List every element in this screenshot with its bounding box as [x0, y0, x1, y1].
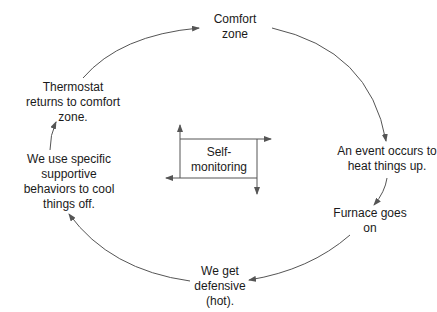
arrow-event-to-furnace	[374, 178, 387, 205]
node-self-monitoring: Self- monitoring	[184, 145, 254, 175]
node-line: returns to comfort	[18, 95, 128, 110]
arrow-comfort-to-event	[272, 28, 386, 141]
node-line: (hot).	[180, 294, 260, 309]
node-line: behaviors to cool	[14, 182, 124, 197]
node-line: Furnace goes	[320, 206, 420, 221]
node-line: supportive	[14, 167, 124, 182]
arrow-thermostat-to-comfort	[83, 28, 199, 78]
node-line: on	[320, 221, 420, 236]
node-line: things off.	[14, 197, 124, 212]
arrow-furnace-to-defensive	[249, 235, 350, 280]
node-we-get-defensive: We get defensive (hot).	[180, 264, 260, 309]
node-line: zone.	[18, 110, 128, 125]
node-line: monitoring	[184, 160, 254, 175]
node-line: zone	[190, 27, 280, 42]
node-line: heat things up.	[329, 159, 437, 174]
node-line: Self-	[184, 145, 254, 160]
node-supportive-behaviors: We use specific supportive behaviors to …	[14, 152, 124, 212]
arrow-behaviors-to-thermostat	[50, 122, 56, 150]
node-event-occurs: An event occurs to heat things up.	[329, 144, 437, 174]
node-thermostat-returns: Thermostat returns to comfort zone.	[18, 80, 128, 125]
node-line: An event occurs to	[329, 144, 437, 159]
node-line: We get	[180, 264, 260, 279]
node-line: defensive	[180, 279, 260, 294]
node-line: Thermostat	[18, 80, 128, 95]
node-line: Comfort	[190, 12, 280, 27]
node-comfort-zone: Comfort zone	[190, 12, 280, 42]
arrow-defensive-to-behaviors	[69, 214, 190, 281]
node-line: We use specific	[14, 152, 124, 167]
node-furnace-goes-on: Furnace goes on	[320, 206, 420, 236]
